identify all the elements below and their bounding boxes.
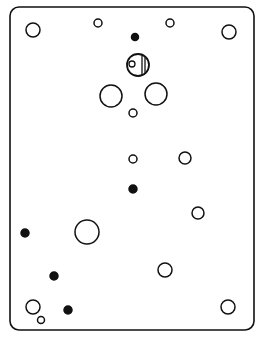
hole-lower-right-hole (158, 263, 172, 277)
hole-right-mid-hole (179, 152, 191, 164)
hole-bottom-left-small (38, 317, 45, 324)
striped-hole (127, 54, 149, 76)
filled-dot-lower-left-dot (50, 272, 58, 280)
filled-dot-bottom-dot (64, 306, 72, 314)
hole-center-small-hole-1 (129, 109, 137, 117)
panel-diagram (0, 0, 257, 337)
hole-top-right-hole (222, 25, 236, 39)
filled-dot-center-dot (129, 185, 137, 193)
hole-bottom-right-hole (221, 300, 235, 314)
hole-bottom-left-hole (26, 300, 40, 314)
filled-dot-top-center-dot (132, 34, 139, 41)
hole-top-small-hole-left (94, 19, 102, 27)
hole-right-lower-hole (192, 207, 204, 219)
striped-hole-outer (127, 54, 149, 76)
hole-right-large-hole (145, 83, 167, 105)
hole-top-left-hole (26, 23, 40, 37)
hole-center-small-hole-2 (129, 155, 137, 163)
hole-top-small-hole-right (166, 19, 174, 27)
filled-dot-left-edge-dot (21, 229, 29, 237)
hole-left-large-hole (100, 85, 122, 107)
hole-lower-large-hole (75, 220, 99, 244)
striped-hole-inner (129, 61, 135, 67)
